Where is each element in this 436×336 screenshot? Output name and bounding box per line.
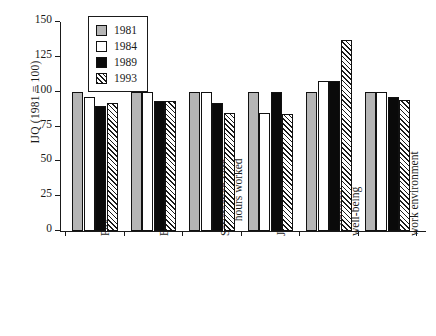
bar [282, 114, 293, 231]
bar-group [306, 22, 352, 231]
bar [189, 92, 200, 231]
bar [306, 92, 317, 231]
bar-group [189, 22, 235, 231]
y-tick: 100 [55, 91, 60, 92]
x-tick [182, 231, 183, 236]
bar [165, 101, 176, 231]
bar [271, 92, 282, 231]
legend: 1981198419891993 [88, 16, 148, 92]
y-tick: 125 [55, 56, 60, 57]
y-axis-line [60, 22, 61, 231]
y-axis-title: IJQ (1981 = 100) [29, 22, 41, 182]
bar [95, 106, 106, 231]
y-tick-label: 100 [35, 83, 52, 95]
bar [142, 92, 153, 231]
bar [154, 101, 165, 231]
bar [224, 113, 235, 231]
bar [248, 92, 259, 231]
legend-swatch-1993 [96, 73, 107, 84]
legend-label: 1984 [114, 40, 137, 52]
bar [388, 97, 399, 231]
legend-swatch-1981 [96, 25, 107, 36]
bar [107, 103, 118, 231]
y-tick-label: 75 [41, 118, 53, 130]
y-tick: 75 [55, 126, 60, 127]
bar-group [365, 22, 411, 231]
legend-item: 1984 [96, 38, 137, 54]
y-tick: 150 [55, 21, 60, 22]
y-tick: 25 [55, 195, 60, 196]
y-tick-label: 0 [46, 222, 52, 234]
y-tick: 0 [55, 230, 60, 231]
legend-swatch-1989 [96, 57, 107, 68]
legend-label: 1981 [114, 24, 137, 36]
legend-item: 1989 [96, 54, 137, 70]
bar [341, 40, 352, 231]
x-tick [299, 231, 300, 236]
bar [72, 92, 83, 231]
y-tick-label: 150 [35, 13, 52, 25]
x-tick [124, 231, 125, 236]
legend-label: 1993 [114, 72, 137, 84]
bar [84, 97, 95, 231]
bar [131, 92, 142, 231]
y-tick: 50 [55, 160, 60, 161]
bar [329, 81, 340, 231]
bar [365, 92, 376, 231]
bar [259, 113, 270, 231]
legend-item: 1993 [96, 70, 137, 86]
y-tick-label: 25 [41, 187, 53, 199]
bar-group [248, 22, 294, 231]
legend-swatch-1984 [96, 41, 107, 52]
legend-item: 1981 [96, 22, 137, 38]
bar [376, 92, 387, 231]
bar [201, 92, 212, 231]
x-tick [65, 231, 66, 236]
bar [212, 103, 223, 231]
bar [318, 81, 329, 231]
chart-figure: IJQ (1981 = 100) 0255075100125150 198119… [0, 0, 436, 336]
y-tick-label: 125 [35, 48, 52, 60]
bar [399, 100, 410, 231]
y-tick-label: 50 [41, 152, 53, 164]
legend-label: 1989 [114, 56, 137, 68]
